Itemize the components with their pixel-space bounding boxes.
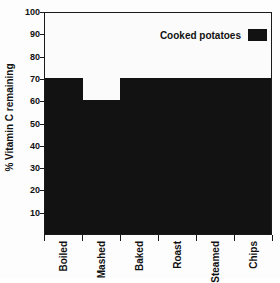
- y-tick-label: 50: [18, 119, 40, 128]
- bar-baked: [120, 78, 158, 234]
- plot-area: Cooked potatoes: [44, 12, 272, 235]
- bar-steamed: [196, 78, 234, 234]
- x-label-cell: Steamed: [196, 241, 234, 279]
- bars-layer: [45, 13, 271, 234]
- y-tick-label: 90: [18, 30, 40, 39]
- x-axis-labels: BoiledMashedBakedRoastSteamedChips: [44, 241, 272, 279]
- y-axis-tick-labels: 102030405060708090100: [18, 12, 40, 235]
- y-axis-title: % Vitamin C remaining: [0, 0, 18, 235]
- y-tick-label: 10: [18, 208, 40, 217]
- legend-swatch-icon: [248, 29, 267, 41]
- bar-mashed: [83, 100, 121, 234]
- x-axis-label: Roast: [172, 241, 183, 269]
- x-axis-label: Mashed: [96, 241, 107, 278]
- y-tick-label: 80: [18, 52, 40, 61]
- legend-label: Cooked potatoes: [160, 30, 241, 41]
- bar-chips: [233, 78, 271, 234]
- x-label-cell: Baked: [120, 241, 158, 279]
- y-axis-title-text: % Vitamin C remaining: [4, 63, 15, 171]
- x-label-cell: Boiled: [44, 241, 82, 279]
- x-axis-label: Boiled: [58, 241, 69, 272]
- y-tick-label: 100: [18, 8, 40, 17]
- y-tick-label: 60: [18, 97, 40, 106]
- bar-roast: [158, 78, 196, 234]
- x-axis-label: Steamed: [210, 241, 221, 283]
- x-tick-mark: [272, 235, 273, 241]
- x-label-cell: Roast: [158, 241, 196, 279]
- x-label-cell: Mashed: [82, 241, 120, 279]
- x-axis-label: Chips: [248, 241, 259, 269]
- x-axis-label: Baked: [134, 241, 145, 271]
- x-label-cell: Chips: [234, 241, 272, 279]
- y-tick-label: 30: [18, 164, 40, 173]
- y-tick-label: 20: [18, 186, 40, 195]
- y-tick-label: 40: [18, 141, 40, 150]
- legend: Cooked potatoes: [160, 29, 267, 41]
- y-tick-label: 70: [18, 74, 40, 83]
- bar-boiled: [45, 78, 83, 234]
